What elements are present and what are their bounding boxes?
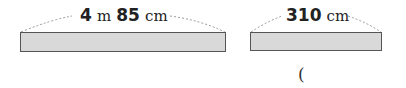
length-label-left: 4 m 85 cm <box>80 7 168 24</box>
length-centimeters: 85 <box>116 5 140 25</box>
length-centimeters: 310 <box>286 5 322 25</box>
unit-centimeters: cm <box>327 7 350 25</box>
unit-centimeters: cm <box>145 7 168 25</box>
length-bar-right <box>250 32 382 51</box>
length-label-right: 310 cm <box>286 7 349 24</box>
answer-paren-open: ( <box>298 64 305 84</box>
length-bar-left <box>20 32 226 52</box>
unit-meters: m <box>97 7 111 25</box>
length-meters: 4 <box>80 5 92 25</box>
